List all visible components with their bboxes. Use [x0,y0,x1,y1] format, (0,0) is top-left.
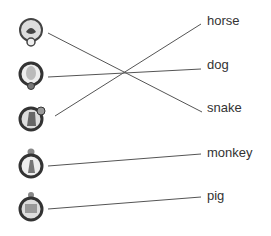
word-snake: snake [207,101,242,115]
pig-zodiac-icon [18,191,44,219]
word-pig: pig [207,189,224,203]
monkey-zodiac-icon [18,148,44,176]
dog-zodiac-icon [18,61,44,89]
snake-zodiac-icon [18,17,44,45]
word-monkey: monkey [207,146,253,160]
horse-zodiac-icon [18,104,44,132]
word-dog: dog [207,58,229,72]
word-horse: horse [207,14,240,28]
